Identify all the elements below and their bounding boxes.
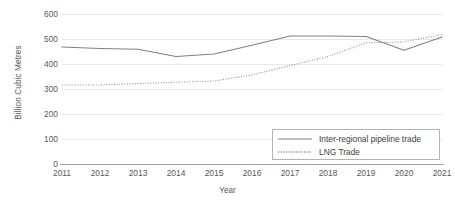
legend-swatch-dotted-icon [277,147,313,157]
chart-legend: Inter-regional pipeline trade LNG Trade [272,129,440,160]
legend-swatch-solid-icon [277,134,313,144]
legend-label-lng-trade: LNG Trade [319,148,360,156]
x-axis-tick-label: 2015 [194,168,234,178]
x-axis-tick-label: 2017 [270,168,310,178]
x-axis-tick-label: 2012 [80,168,120,178]
line-chart: Billion Cubic Metres 0100200300400500600… [0,0,455,212]
x-axis-tick-label: 2019 [346,168,386,178]
x-axis-tick-label: 2016 [232,168,272,178]
x-axis-tick-label: 2021 [422,168,455,178]
legend-label-inter-regional-pipeline-trade: Inter-regional pipeline trade [319,135,421,143]
legend-item-inter-regional-pipeline-trade[interactable]: Inter-regional pipeline trade [277,133,435,145]
x-axis-tick-labels: 2011201220132014201520162017201820192020… [62,168,442,182]
series-line-inter-regional-pipeline-trade [62,36,442,57]
x-axis-tick-label: 2020 [384,168,424,178]
x-axis-tick-label: 2014 [156,168,196,178]
x-axis-tick-label: 2018 [308,168,348,178]
legend-item-lng-trade[interactable]: LNG Trade [277,146,435,158]
x-axis-tick-label: 2011 [42,168,82,178]
x-axis-title: Year [0,186,455,195]
series-line-lng-trade [62,35,442,86]
x-axis-tick-label: 2013 [118,168,158,178]
